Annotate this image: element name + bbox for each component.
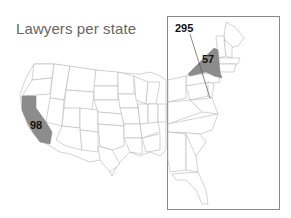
dc-value-label: 295 bbox=[175, 22, 193, 34]
california-value-label: 98 bbox=[30, 119, 42, 131]
us-map bbox=[0, 0, 291, 218]
new-york-value-label: 57 bbox=[202, 53, 214, 65]
